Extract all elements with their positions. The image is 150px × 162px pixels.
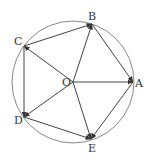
label-point-a: A <box>134 77 144 90</box>
pentagon-diagram: O A B C D E <box>0 0 150 162</box>
label-point-c: C <box>14 35 22 48</box>
label-point-b: B <box>88 10 96 23</box>
vector-ob <box>73 24 92 82</box>
label-point-e: E <box>88 142 96 155</box>
diagram-canvas: O A B C D E <box>0 0 150 162</box>
label-point-d: D <box>14 114 23 127</box>
vector-de <box>24 117 91 139</box>
vectors-group <box>24 24 133 139</box>
vector-oe <box>73 82 91 139</box>
label-center-o: O <box>62 76 71 89</box>
